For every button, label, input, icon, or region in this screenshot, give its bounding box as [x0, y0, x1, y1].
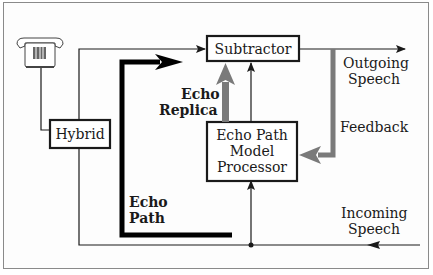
- echo-replica-label-2: Replica: [159, 102, 218, 118]
- outgoing-speech-label-1: Outgoing: [343, 55, 409, 71]
- feedback-arrow: [318, 49, 333, 155]
- echo-replica-arrow: [222, 82, 229, 122]
- hybrid-label: Hybrid: [55, 126, 104, 142]
- outgoing-speech-label-2: Speech: [348, 71, 400, 87]
- echo-canceller-diagram: Hybrid Subtractor Echo Path Model Proces…: [0, 0, 433, 275]
- echo-replica-label-1: Echo: [181, 86, 220, 102]
- echo-path-label-2: Path: [129, 210, 165, 226]
- telephone-icon: [17, 38, 63, 68]
- processor-label-3: Processor: [217, 159, 287, 175]
- processor-label-1: Echo Path: [216, 127, 288, 143]
- incoming-speech-label-1: Incoming: [341, 205, 408, 221]
- subtractor-label: Subtractor: [215, 41, 292, 57]
- processor-label-2: Model: [230, 143, 275, 159]
- echo-path-label-1: Echo: [129, 194, 168, 210]
- incoming-speech-label-2: Speech: [348, 221, 400, 237]
- feedback-label: Feedback: [340, 119, 409, 135]
